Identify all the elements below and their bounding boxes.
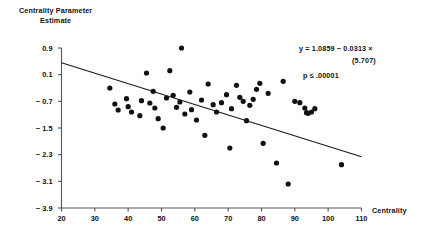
data-point (281, 79, 286, 84)
data-point (147, 100, 152, 105)
data-point (164, 95, 169, 100)
data-point (261, 141, 266, 146)
data-point (177, 99, 182, 104)
data-point (234, 83, 239, 88)
data-point (152, 105, 157, 110)
y-tick-label: − 3.9 (27, 204, 53, 213)
y-tick-label: 0.1 (27, 70, 53, 79)
data-point (302, 105, 307, 110)
scatter-plot-figure: Centrality Parameter Estimate Centrality… (0, 0, 427, 244)
data-point (179, 45, 184, 50)
data-point (202, 133, 207, 138)
tick-marks (58, 48, 362, 212)
data-point (297, 100, 302, 105)
y-tick-label: − 1.5 (27, 124, 53, 133)
data-point (144, 70, 149, 75)
axis-spines (62, 48, 362, 208)
x-tick-label: 40 (117, 214, 139, 223)
x-tick-label: 30 (84, 214, 106, 223)
y-tick-label: − 2.3 (27, 150, 53, 159)
data-point (247, 103, 252, 108)
x-tick-label: 60 (184, 214, 206, 223)
data-points (107, 45, 344, 186)
y-tick-label: 0.9 (27, 44, 53, 53)
data-point (229, 106, 234, 111)
x-tick-label: 110 (351, 214, 373, 223)
data-point (339, 162, 344, 167)
data-point (219, 100, 224, 105)
data-point (274, 160, 279, 165)
data-point (182, 111, 187, 116)
data-point (312, 106, 317, 111)
data-point (227, 145, 232, 150)
data-point (251, 97, 256, 102)
data-point (151, 89, 156, 94)
data-point (206, 81, 211, 86)
y-tick-label: − 3.1 (27, 177, 53, 186)
data-point (174, 105, 179, 110)
data-point (257, 81, 262, 86)
data-point (167, 68, 172, 73)
data-point (244, 118, 249, 123)
data-point (137, 113, 142, 118)
data-point (156, 116, 161, 121)
data-point (139, 98, 144, 103)
data-point (107, 85, 112, 90)
x-tick-label: 100 (317, 214, 339, 223)
data-point (224, 92, 229, 97)
data-point (254, 87, 259, 92)
data-point (116, 107, 121, 112)
data-point (187, 89, 192, 94)
data-point (214, 109, 219, 114)
y-tick-label: − 0.7 (27, 97, 53, 106)
x-tick-label: 90 (284, 214, 306, 223)
x-tick-label: 50 (151, 214, 173, 223)
data-point (129, 109, 134, 114)
data-point (292, 99, 297, 104)
data-point (171, 93, 176, 98)
data-point (194, 117, 199, 122)
data-point (237, 95, 242, 100)
data-point (199, 97, 204, 102)
data-point (211, 102, 216, 107)
data-point (126, 104, 131, 109)
plot-canvas (0, 0, 427, 244)
data-point (189, 107, 194, 112)
data-point (112, 101, 117, 106)
x-tick-label: 70 (217, 214, 239, 223)
data-point (161, 125, 166, 130)
data-point (241, 99, 246, 104)
x-tick-label: 80 (251, 214, 273, 223)
data-point (124, 96, 129, 101)
data-point (286, 181, 291, 186)
x-tick-label: 20 (51, 214, 73, 223)
data-point (266, 91, 271, 96)
